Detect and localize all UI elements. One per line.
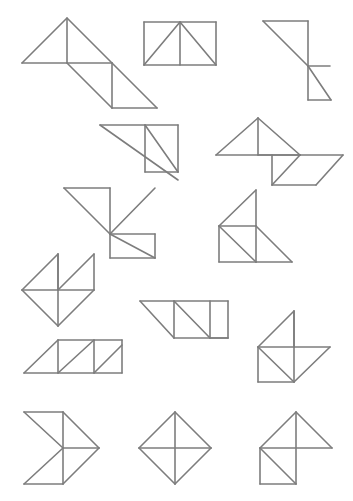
figure-segment	[175, 448, 211, 484]
figure-segment	[139, 412, 175, 448]
figure-segment	[64, 188, 110, 234]
figure-segment	[296, 412, 332, 448]
figure-segment	[110, 234, 155, 258]
figure-segment	[110, 188, 155, 234]
figure-segment	[294, 347, 330, 382]
figure-triangle-over-square-pinwheel	[260, 412, 332, 484]
figure-segment	[316, 155, 343, 185]
figure-segment	[58, 340, 94, 373]
figure-segment	[63, 412, 99, 448]
figure-segment	[63, 448, 99, 484]
figure-segment	[174, 301, 210, 338]
figure-triangle-with-adjacent-diamond	[216, 118, 343, 185]
figure-segment	[140, 301, 174, 338]
figures-canvas	[0, 0, 353, 501]
figure-stepped-parallelogram-stack	[64, 188, 155, 258]
figure-segment	[58, 254, 94, 290]
figure-triangle-with-trailing-parallelogram	[22, 18, 157, 108]
figure-segment	[144, 22, 180, 65]
figures-group	[22, 18, 343, 484]
figure-segment	[216, 118, 258, 155]
figure-segment	[180, 22, 216, 65]
figure-segment	[308, 66, 331, 100]
figure-segment	[94, 345, 122, 373]
figure-trapezoid-with-internal-triangles	[24, 340, 122, 373]
figure-pinwheel-with-corner-square	[258, 311, 330, 382]
figure-diamond-with-cross-lines	[139, 412, 211, 484]
figure-segment	[258, 118, 300, 155]
figure-segment	[22, 290, 58, 326]
figure-segment	[219, 226, 256, 262]
figure-segment	[260, 412, 296, 448]
tangram-sheet-page	[0, 0, 353, 501]
figure-right-pointing-chevron-arrow	[24, 412, 99, 484]
figure-segment	[112, 63, 157, 108]
figure-segment	[22, 254, 58, 290]
figure-pinwheel-quad-triangles	[22, 254, 94, 326]
figure-rectangle-with-inscribed-triangle	[144, 22, 216, 65]
figure-segment	[258, 311, 294, 347]
figure-triangle-square-triangle-cluster	[219, 190, 292, 262]
figure-segment	[263, 21, 308, 66]
figure-segment	[272, 155, 300, 185]
figure-segment	[258, 347, 294, 382]
figure-stacked-z-triangles	[263, 21, 331, 100]
figure-segment	[24, 448, 63, 484]
figure-segment	[139, 448, 175, 484]
figure-large-triangle-with-square-diagonal	[100, 125, 178, 180]
figure-segment	[175, 412, 211, 448]
figure-segment	[24, 412, 63, 448]
figure-segment	[67, 63, 112, 108]
figure-inverted-trapezoid-with-triangles	[140, 301, 228, 338]
figure-segment	[145, 125, 178, 172]
figure-segment	[219, 190, 256, 226]
figure-segment	[256, 226, 292, 262]
figure-segment	[260, 448, 296, 484]
figure-segment	[58, 290, 94, 326]
figure-segment	[24, 340, 58, 373]
